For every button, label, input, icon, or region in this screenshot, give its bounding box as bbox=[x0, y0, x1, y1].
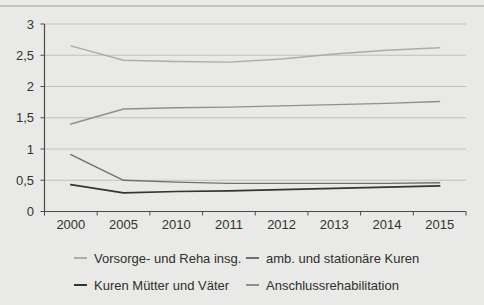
legend-item-vorsorge-und-reha-insg: Vorsorge- und Reha insg. bbox=[74, 250, 241, 266]
series-line-2 bbox=[71, 155, 440, 184]
x-tick-label: 2012 bbox=[267, 217, 296, 232]
legend-label: Vorsorge- und Reha insg. bbox=[94, 251, 241, 266]
series-line-1 bbox=[71, 46, 440, 62]
legend-line-swatch bbox=[74, 257, 87, 259]
legend-item-kuren-muetter-und-vaeter: Kuren Mütter und Väter bbox=[74, 277, 229, 293]
y-tick-label: 0 bbox=[27, 204, 34, 219]
y-tick-label: 1 bbox=[27, 142, 34, 157]
legend-item-anschlussrehabilitation: Anschlussrehabilitation bbox=[246, 277, 399, 293]
x-tick-label: 2005 bbox=[109, 217, 138, 232]
y-tick-label: 0,5 bbox=[16, 173, 34, 188]
legend-label: amb. und stationäre Kuren bbox=[266, 251, 419, 266]
line-chart: 00,511,522,53200020052010201120122013201… bbox=[0, 0, 484, 238]
y-tick-label: 3 bbox=[27, 17, 34, 32]
series-line-3 bbox=[71, 185, 440, 193]
x-tick-label: 2014 bbox=[373, 217, 402, 232]
chart-canvas: 00,511,522,53200020052010201120122013201… bbox=[0, 0, 484, 238]
x-tick-label: 2010 bbox=[162, 217, 191, 232]
legend-item-amb-und-stationaere-kuren: amb. und stationäre Kuren bbox=[246, 250, 419, 266]
y-tick-label: 1,5 bbox=[16, 110, 34, 125]
x-tick-label: 2015 bbox=[425, 217, 454, 232]
legend-label: Kuren Mütter und Väter bbox=[94, 278, 229, 293]
y-tick-label: 2,5 bbox=[16, 48, 34, 63]
legend-line-swatch bbox=[246, 257, 259, 259]
x-tick-label: 2011 bbox=[215, 217, 243, 232]
chart-legend: Vorsorge- und Reha insg. amb. und statio… bbox=[0, 243, 484, 303]
x-tick-label: 2000 bbox=[56, 217, 85, 232]
series-line-4 bbox=[71, 102, 440, 125]
y-tick-label: 2 bbox=[27, 79, 34, 94]
x-tick-label: 2013 bbox=[320, 217, 349, 232]
legend-label: Anschlussrehabilitation bbox=[266, 278, 399, 293]
legend-line-swatch bbox=[74, 284, 87, 286]
legend-line-swatch bbox=[246, 284, 259, 286]
